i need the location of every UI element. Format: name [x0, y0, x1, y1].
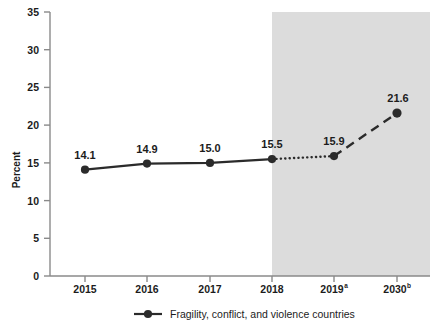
data-label-2030: 21.6 — [387, 92, 408, 104]
y-tick-label-15: 15 — [27, 157, 39, 169]
data-label-2017: 15.0 — [199, 142, 220, 154]
y-axis-ticks — [44, 12, 50, 276]
x-tick-label-2018: 2018 — [260, 283, 284, 295]
data-point-2017[interactable] — [206, 159, 214, 167]
x-tick-superscript-2019: a — [344, 282, 348, 289]
line-chart: 0 5 10 15 20 25 30 35 Percent 2015 2016 … — [0, 0, 447, 331]
x-tick-label-2017: 2017 — [198, 283, 222, 295]
y-tick-label-20: 20 — [27, 119, 39, 131]
y-axis-title: Percent — [11, 151, 22, 188]
data-label-2016: 14.9 — [136, 143, 157, 155]
legend-item-label[interactable]: Fragility, conflict, and violence countr… — [170, 308, 355, 320]
data-point-2019[interactable] — [330, 152, 338, 160]
data-label-2015: 14.1 — [74, 149, 95, 161]
y-tick-label-30: 30 — [27, 44, 39, 56]
x-tick-label-2015: 2015 — [73, 283, 97, 295]
x-tick-label-2019: 2019 — [320, 283, 344, 295]
x-tick-label-2030: 2030 — [383, 283, 407, 295]
chart-container: 0 5 10 15 20 25 30 35 Percent 2015 2016 … — [0, 0, 447, 331]
x-tick-label-2016: 2016 — [135, 283, 159, 295]
data-point-2018[interactable] — [268, 155, 276, 163]
data-label-2019: 15.9 — [323, 135, 344, 147]
data-point-2016[interactable] — [143, 160, 151, 168]
x-axis-tick-labels: 2015 2016 2017 2018 2019 a 2030 b — [73, 282, 411, 295]
data-label-2018: 15.5 — [261, 138, 282, 150]
x-axis-ticks — [85, 276, 397, 282]
y-tick-label-0: 0 — [33, 270, 39, 282]
chart-legend: Fragility, conflict, and violence countr… — [134, 308, 355, 320]
line-segment-solid — [85, 159, 272, 170]
data-point-2015[interactable] — [81, 166, 89, 174]
y-tick-label-10: 10 — [27, 195, 39, 207]
y-axis-tick-labels: 0 5 10 15 20 25 30 35 — [27, 6, 39, 282]
x-tick-superscript-2030: b — [407, 282, 411, 289]
legend-marker-circle-icon — [144, 310, 152, 318]
data-point-2030[interactable] — [392, 109, 401, 118]
y-tick-label-35: 35 — [27, 6, 39, 18]
y-tick-label-5: 5 — [33, 232, 39, 244]
y-tick-label-25: 25 — [27, 81, 39, 93]
